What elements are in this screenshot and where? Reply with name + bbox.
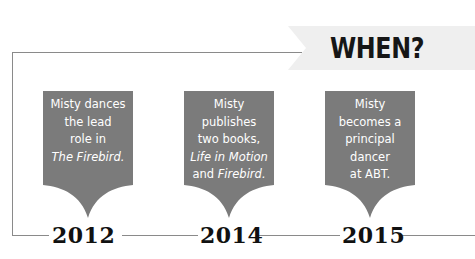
timeline-event-2014: Misty publishes two books, Life in Motio… [184, 91, 274, 219]
timeline-line-segment [258, 235, 340, 236]
when-banner: WHEN? [288, 26, 475, 70]
book-title: The Firebird. [52, 150, 125, 164]
year-label-2015: 2015 [342, 220, 405, 250]
year-label-2012: 2012 [52, 220, 115, 250]
timeline-line-segment [12, 235, 49, 236]
book-title: Firebird. [218, 167, 266, 181]
timeline-frame-left-line [12, 52, 13, 235]
banner-title: WHEN? [330, 29, 424, 67]
timeline-event-2015: Misty becomes a principal dancer at ABT. [325, 91, 415, 219]
timeline-line-segment [122, 235, 198, 236]
year-label-2014: 2014 [200, 220, 263, 250]
event-description: Misty becomes a principal dancer at ABT. [325, 91, 415, 184]
event-description: Misty dances the lead role in The Firebi… [43, 91, 133, 166]
book-title: Life in Motion [190, 150, 268, 164]
event-description: Misty publishes two books, Life in Motio… [184, 91, 274, 184]
timeline-event-2012: Misty dances the lead role in The Firebi… [43, 91, 133, 219]
timeline-line-segment [401, 235, 475, 236]
timeline-frame-top-line [12, 52, 302, 53]
